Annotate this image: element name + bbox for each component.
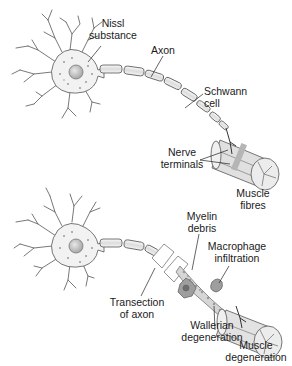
label-nissl-line1: Nissl <box>85 17 141 29</box>
top-nucleus <box>69 65 83 79</box>
bottom-axon-segments <box>100 239 160 257</box>
label-macrophage-infiltration: Macrophage infiltration <box>206 240 268 264</box>
label-nissl-substance: Nissl substance <box>85 17 141 41</box>
label-nissl-line2: substance <box>85 29 141 41</box>
bottom-nucleus <box>69 239 83 253</box>
label-myelin-debris: Myelin debris <box>184 210 220 234</box>
label-nerve-terminals: Nerve terminals <box>160 146 204 170</box>
label-schwann-cell: Schwann cell <box>204 85 247 109</box>
top-muscle-bundle <box>211 140 279 190</box>
label-muscle-degeneration: Muscle degeneration <box>220 339 292 363</box>
label-muscle-fibres: Muscle fibres <box>228 187 278 211</box>
label-transection-of-axon: Transection of axon <box>106 296 168 320</box>
label-axon: Axon <box>151 44 175 56</box>
